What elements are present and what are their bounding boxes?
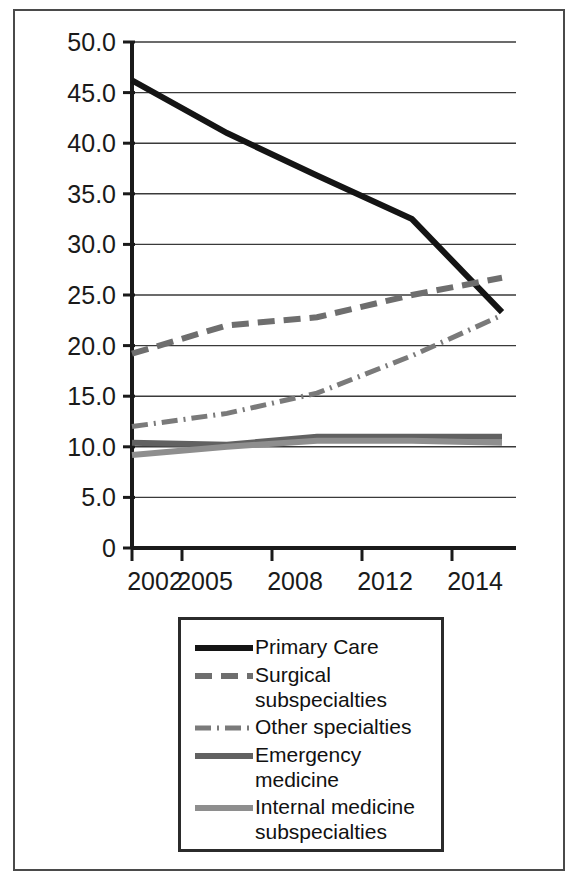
y-axis-tick-labels: 50.045.040.035.030.025.020.015.010.05.00 [67,28,116,562]
y-tick-label: 20.0 [67,332,116,360]
legend-entry[interactable]: Internal medicine subspecialties [193,794,433,844]
x-tick-label: 2014 [447,567,503,595]
legend-label: Surgical subspecialties [255,662,387,712]
x-tick-label: 2002 [127,567,183,595]
legend-label: Emergency medicine [255,742,433,792]
y-tick-label: 40.0 [67,129,116,157]
x-tick-label: 2008 [267,567,323,595]
y-tick-label: 30.0 [67,230,116,258]
line-chart: 50.045.040.035.030.025.020.015.010.05.00… [0,0,579,600]
legend-swatch-icon [193,794,255,820]
legend-swatch-icon [193,714,255,740]
legend-swatch-icon [193,742,255,768]
legend-label: Primary Care [255,634,379,659]
legend-swatch-icon [193,662,255,688]
y-tick-label: 0 [102,534,116,562]
legend-entry[interactable]: Emergency medicine [193,742,433,792]
legend-entry[interactable]: Other specialties [193,714,433,740]
y-tick-label: 25.0 [67,281,116,309]
legend: Primary CareSurgical subspecialtiesOther… [178,617,444,852]
y-tick-label: 50.0 [67,28,116,56]
y-tick-label: 35.0 [67,180,116,208]
data-series-group [132,80,502,454]
series-line-primary-care [132,80,502,312]
y-tick-label: 15.0 [67,382,116,410]
legend-entry[interactable]: Primary Care [193,634,433,660]
legend-entries: Primary CareSurgical subspecialtiesOther… [193,634,433,846]
y-tick-label: 10.0 [67,433,116,461]
chart-canvas: 50.045.040.035.030.025.020.015.010.05.00… [0,0,579,600]
x-axis-tick-labels: 20022005200820122014 [127,567,503,595]
series-line-other-specialties [132,315,502,426]
legend-entry[interactable]: Surgical subspecialties [193,662,433,712]
x-axis: 20022005200820122014 [127,548,516,595]
legend-label: Other specialties [255,714,411,739]
y-tick-label: 45.0 [67,79,116,107]
series-line-surgical-subspecialties [132,278,502,354]
y-tick-label: 5.0 [81,483,116,511]
y-axis: 50.045.040.035.030.025.020.015.010.05.00 [67,28,135,562]
legend-label: Internal medicine subspecialties [255,794,415,844]
x-tick-label: 2012 [357,567,413,595]
x-tick-label: 2005 [177,567,233,595]
legend-swatch-icon [193,634,255,660]
